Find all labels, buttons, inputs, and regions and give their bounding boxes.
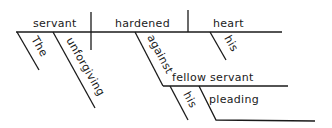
preposition-against: against <box>144 32 176 76</box>
sentence-diagram: servant hardened heart The unforgiving h… <box>0 0 332 128</box>
modifier-his-heart: his <box>221 33 241 54</box>
prepositional-object: fellow servant <box>172 71 254 84</box>
verb-word: hardened <box>115 17 170 30</box>
modifier-the: The <box>28 33 50 59</box>
modifier-his-servant: his <box>180 89 199 110</box>
modifier-pleading-text: pleading <box>209 93 259 106</box>
modifier-line-his-heart <box>210 32 226 60</box>
modifier-pleading: pleading <box>209 93 259 106</box>
subject-word: servant <box>33 17 77 30</box>
modifier-unforgiving: unforgiving <box>63 35 107 98</box>
object-word: heart <box>213 17 244 30</box>
